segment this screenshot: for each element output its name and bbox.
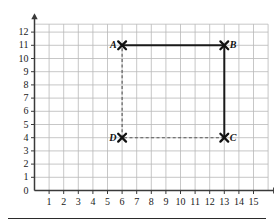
y-axis-tick-label: 3: [24, 146, 29, 156]
y-axis-tick-label: 6: [24, 106, 29, 116]
y-axis-tick-label: 8: [24, 80, 29, 90]
x-axis-tick-label: 7: [134, 197, 139, 207]
x-axis-tick-label: 1: [47, 197, 52, 207]
bottom-divider: [8, 218, 266, 219]
y-axis-tick-label: 9: [24, 67, 29, 77]
y-axis-tick-label: 12: [19, 27, 29, 37]
x-axis-tick-label: 4: [90, 197, 95, 207]
segment-lines: [122, 45, 224, 137]
x-axis-tick-label: 15: [249, 197, 259, 207]
coordinate-plot: [0, 0, 274, 224]
y-axis-tick-label: 11: [19, 40, 29, 50]
x-axis-tick-label: 5: [105, 197, 110, 207]
x-axis-tick-label: 12: [205, 197, 215, 207]
x-axis-tick-label: 11: [190, 197, 200, 207]
point-markers: [118, 41, 228, 141]
y-axis-arrow-icon: [31, 13, 37, 19]
x-axis-tick-label: 10: [176, 197, 186, 207]
coordinate-grid-figure: 1234567891011121234567891011121314150 AB…: [0, 0, 274, 224]
y-axis-tick-label: 2: [24, 159, 29, 169]
point-label-a: A: [110, 40, 117, 50]
y-axis-tick-label: 7: [24, 93, 29, 103]
point-label-c: C: [230, 133, 237, 143]
x-axis-tick-label: 8: [149, 197, 154, 207]
point-label-b: B: [230, 40, 237, 50]
axis-lines: [31, 13, 274, 194]
x-axis-tick-label: 3: [76, 197, 81, 207]
y-axis-tick-label: 10: [19, 54, 29, 64]
y-axis-tick-label: 5: [24, 120, 29, 130]
point-label-d: D: [109, 133, 116, 143]
y-axis-tick-label: 4: [24, 133, 29, 143]
x-axis-tick-label: 9: [163, 197, 168, 207]
x-axis-tick-label: 14: [234, 197, 244, 207]
x-axis-tick-label: 2: [61, 197, 66, 207]
origin-tick-label: 0: [24, 186, 29, 196]
x-axis-arrow-icon: [273, 187, 274, 193]
y-axis-tick-label: 1: [24, 172, 29, 182]
x-axis-tick-label: 6: [120, 197, 125, 207]
x-axis-tick-label: 13: [219, 197, 229, 207]
